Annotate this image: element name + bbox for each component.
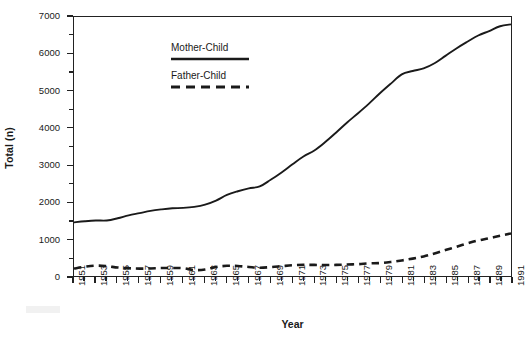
y-tick-label: 0 — [24, 272, 60, 282]
x-tick-label: 1983 — [428, 265, 438, 286]
x-tick-major — [204, 277, 205, 283]
x-tick-major — [72, 277, 73, 283]
x-tick-major — [314, 277, 315, 283]
x-tick-minor — [193, 277, 194, 281]
x-tick-label: 1981 — [406, 265, 416, 286]
x-tick-minor — [391, 277, 392, 281]
x-tick-label: 1969 — [275, 265, 285, 286]
x-tick-minor — [347, 277, 348, 281]
x-tick-label: 1971 — [297, 265, 307, 286]
x-tick-major — [468, 277, 469, 283]
x-tick-minor — [369, 277, 370, 281]
x-tick-major — [160, 277, 161, 283]
x-tick-label: 1975 — [340, 265, 350, 286]
x-tick-label: 1973 — [318, 265, 328, 286]
x-tick-label: 1987 — [472, 265, 482, 286]
x-tick-label: 1991 — [516, 265, 526, 286]
x-tick-label: 1967 — [253, 265, 263, 286]
x-tick-label: 1951 — [77, 265, 87, 286]
x-tick-major — [380, 277, 381, 283]
x-tick-minor — [435, 277, 436, 281]
legend-label-father-child: Father-Child — [171, 69, 249, 82]
x-tick-major — [226, 277, 227, 283]
series-line-father-child — [74, 233, 511, 270]
x-axis-title: Year — [73, 318, 512, 330]
y-tick-label: 1000 — [24, 235, 60, 245]
x-tick-major — [292, 277, 293, 283]
x-tick-minor — [171, 277, 172, 281]
legend-swatch-dashed — [171, 83, 249, 91]
plot-lines — [74, 17, 511, 276]
x-tick-minor — [83, 277, 84, 281]
chart-legend: Mother-Child Father-Child — [171, 41, 249, 97]
x-tick-major — [182, 277, 183, 283]
x-tick-major — [270, 277, 271, 283]
x-tick-major — [116, 277, 117, 283]
x-tick-label: 1955 — [121, 265, 131, 286]
x-tick-minor — [105, 277, 106, 281]
y-tick-label: 5000 — [24, 86, 60, 96]
x-tick-label: 1989 — [494, 265, 504, 286]
x-tick-minor — [303, 277, 304, 281]
legend-label-mother-child: Mother-Child — [171, 41, 249, 54]
x-tick-label: 1965 — [231, 265, 241, 286]
x-tick-label: 1953 — [99, 265, 109, 286]
y-tick-label: 4000 — [24, 123, 60, 133]
x-tick-major — [138, 277, 139, 283]
x-tick-major — [424, 277, 425, 283]
y-tick-label: 3000 — [24, 160, 60, 170]
y-axis-ticks: 01000200030004000500060007000 — [26, 0, 73, 337]
x-tick-major — [489, 277, 490, 283]
x-tick-major — [358, 277, 359, 283]
x-tick-major — [402, 277, 403, 283]
x-tick-major — [446, 277, 447, 283]
series-line-mother-child — [74, 24, 511, 222]
plot-area: Mother-Child Father-Child — [73, 16, 512, 277]
x-tick-minor — [281, 277, 282, 281]
x-tick-label: 1961 — [187, 265, 197, 286]
x-tick-major — [511, 277, 512, 283]
x-tick-major — [336, 277, 337, 283]
x-tick-minor — [500, 277, 501, 281]
legend-entry-mother-child: Mother-Child — [171, 41, 249, 63]
y-tick-label: 7000 — [24, 11, 60, 21]
x-tick-major — [248, 277, 249, 283]
x-tick-label: 1979 — [384, 265, 394, 286]
legend-swatch-solid — [171, 55, 249, 63]
y-axis-title-text: Total (n) — [3, 127, 15, 169]
x-tick-minor — [325, 277, 326, 281]
footer-artifact — [26, 306, 60, 313]
x-tick-minor — [149, 277, 150, 281]
y-axis-title: Total (n) — [0, 0, 20, 337]
x-tick-minor — [215, 277, 216, 281]
x-tick-minor — [237, 277, 238, 281]
legend-entry-father-child: Father-Child — [171, 69, 249, 91]
y-tick-label: 6000 — [24, 48, 60, 58]
y-tick-label: 2000 — [24, 197, 60, 207]
x-tick-minor — [478, 277, 479, 281]
x-tick-minor — [259, 277, 260, 281]
x-tick-label: 1957 — [143, 265, 153, 286]
x-tick-label: 1959 — [165, 265, 175, 286]
x-tick-minor — [457, 277, 458, 281]
x-tick-label: 1985 — [450, 265, 460, 286]
x-tick-label: 1963 — [209, 265, 219, 286]
x-tick-major — [94, 277, 95, 283]
x-tick-label: 1977 — [362, 265, 372, 286]
x-tick-minor — [127, 277, 128, 281]
x-tick-minor — [413, 277, 414, 281]
